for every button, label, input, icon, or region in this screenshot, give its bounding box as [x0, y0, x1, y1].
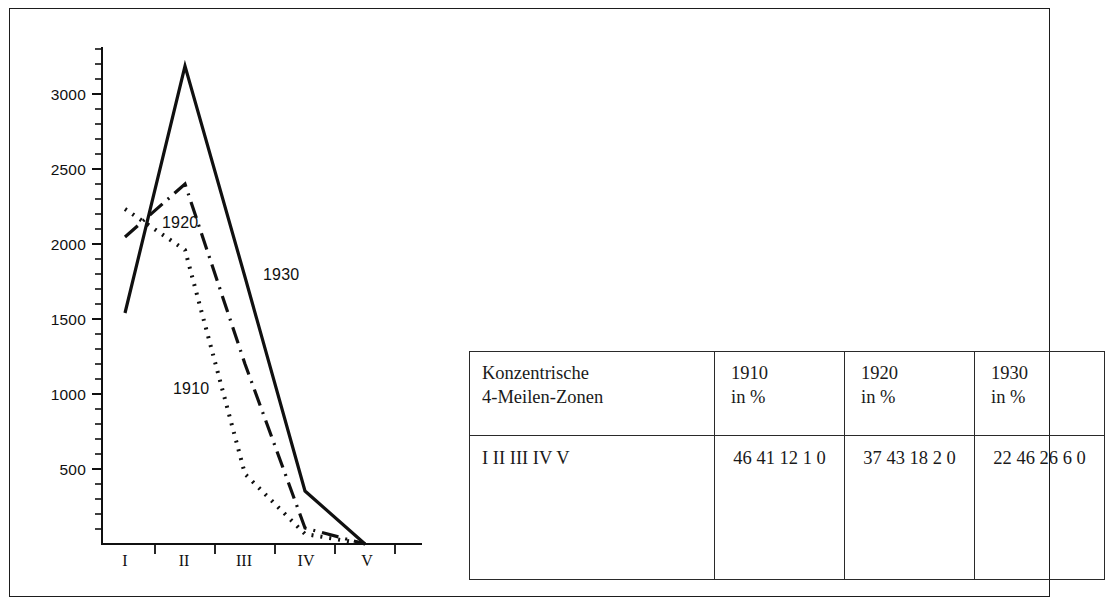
- series-line-1910: [125, 209, 365, 544]
- chart-canvas: 3000 2500 2000 1500 1000 500 I II III IV…: [10, 9, 450, 598]
- series-annotation-1930: 1930: [263, 266, 299, 283]
- table-header-row: Konzentrische 4-Meilen-Zonen 1910in % 19…: [470, 352, 1105, 436]
- y-tick-label-3000: 3000: [51, 86, 86, 103]
- table-header: Konzentrische 4-Meilen-Zonen 1910in % 19…: [470, 352, 1105, 436]
- x-tick-label-II: II: [179, 552, 190, 569]
- x-tick-label-III: III: [236, 552, 252, 569]
- header-1930-year: 1930: [991, 363, 1028, 383]
- y-axis-major-ticks: [92, 94, 102, 469]
- header-1920-unit: in %: [861, 387, 895, 407]
- header-1930-unit: in %: [991, 387, 1025, 407]
- series-line-1930: [125, 66, 365, 544]
- header-cell-1930: 1930in %: [975, 352, 1105, 436]
- cell-values-1930: 22 46 26 6 0: [975, 436, 1105, 580]
- table-row: I II III IV V 46 41 12 1 0 37 43 18 2 0 …: [470, 436, 1105, 580]
- header-cell-1910: 1910in %: [715, 352, 845, 436]
- header-cell-zone: Konzentrische 4-Meilen-Zonen: [470, 352, 715, 436]
- cell-values-1920: 37 43 18 2 0: [845, 436, 975, 580]
- x-tick-label-IV: IV: [298, 552, 315, 569]
- cell-values-1910: 46 41 12 1 0: [715, 436, 845, 580]
- header-1910-year: 1910: [731, 363, 768, 383]
- header-1920-year: 1920: [861, 363, 898, 383]
- header-cell-1920: 1920in %: [845, 352, 975, 436]
- cell-zone-labels: I II III IV V: [470, 436, 715, 580]
- series-annotation-1920: 1920: [162, 214, 198, 231]
- x-tick-label-I: I: [122, 552, 127, 569]
- y-tick-label-2500: 2500: [51, 161, 86, 178]
- y-tick-label-1500: 1500: [51, 311, 86, 328]
- series-line-1920: [125, 184, 365, 544]
- series-annotation-1910: 1910: [173, 380, 209, 397]
- y-tick-label-500: 500: [60, 461, 87, 478]
- zone-percentage-table: Konzentrische 4-Meilen-Zonen 1910in % 19…: [469, 351, 1040, 580]
- y-tick-label-2000: 2000: [51, 236, 86, 253]
- y-axis-minor-ticks: [95, 49, 102, 529]
- header-1910-unit: in %: [731, 387, 765, 407]
- y-tick-label-1000: 1000: [51, 386, 86, 403]
- table: Konzentrische 4-Meilen-Zonen 1910in % 19…: [469, 351, 1105, 580]
- x-axis-ticks: [155, 544, 395, 554]
- x-tick-label-V: V: [361, 552, 373, 569]
- figure-frame: 3000 2500 2000 1500 1000 500 I II III IV…: [9, 8, 1050, 597]
- table-body: I II III IV V 46 41 12 1 0 37 43 18 2 0 …: [470, 436, 1105, 580]
- line-chart: 3000 2500 2000 1500 1000 500 I II III IV…: [10, 9, 450, 598]
